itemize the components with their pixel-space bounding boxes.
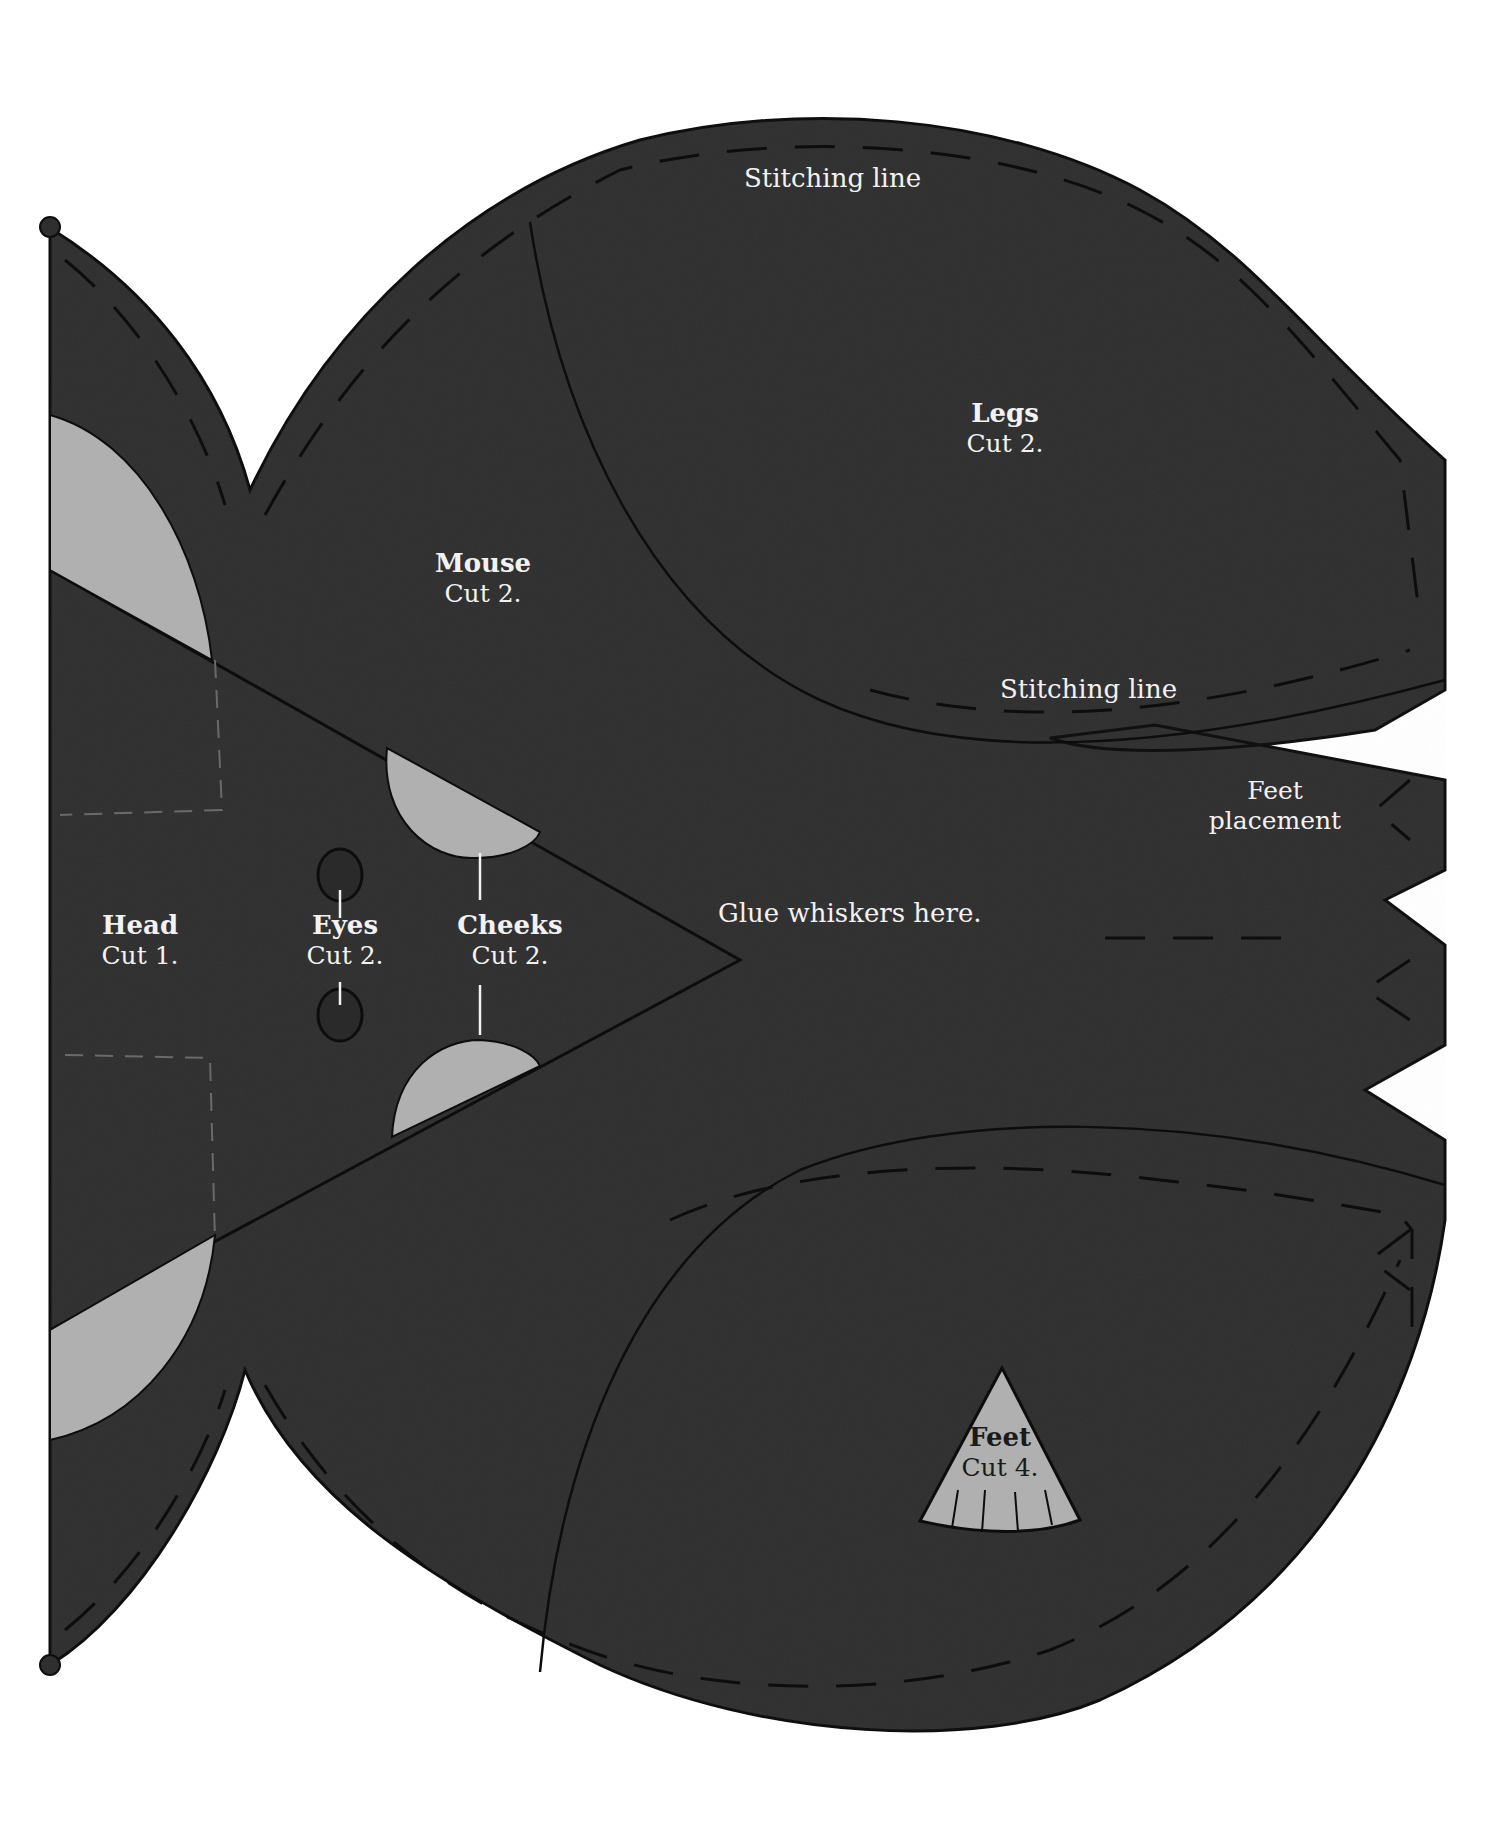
corner-marker-bottom — [40, 1655, 60, 1675]
mouse-title: Mouse — [428, 548, 538, 579]
feet-placement-line1: Feet — [1195, 776, 1355, 806]
head-label: Head Cut 1. — [90, 910, 190, 971]
corner-marker-top — [40, 217, 60, 237]
feet-placement-line2: placement — [1195, 806, 1355, 836]
stitching-line-label-legs: Stitching line — [1000, 674, 1177, 705]
feet-label: Feet Cut 4. — [950, 1422, 1050, 1483]
mouse-label: Mouse Cut 2. — [428, 548, 538, 609]
feet-cut: Cut 4. — [950, 1453, 1050, 1483]
cheeks-label: Cheeks Cut 2. — [450, 910, 570, 971]
eyes-title: Eyes — [295, 910, 395, 941]
head-title: Head — [90, 910, 190, 941]
legs-title: Legs — [955, 398, 1055, 429]
glue-whiskers-label: Glue whiskers here. — [718, 898, 982, 929]
mouse-cut: Cut 2. — [428, 579, 538, 609]
cheeks-cut: Cut 2. — [450, 941, 570, 971]
stitching-line-label-top: Stitching line — [744, 163, 921, 194]
legs-cut: Cut 2. — [955, 429, 1055, 459]
feet-placement-label: Feet placement — [1195, 776, 1355, 836]
eyes-label: Eyes Cut 2. — [295, 910, 395, 971]
legs-label: Legs Cut 2. — [955, 398, 1055, 459]
head-cut: Cut 1. — [90, 941, 190, 971]
eyes-cut: Cut 2. — [295, 941, 395, 971]
cheeks-title: Cheeks — [450, 910, 570, 941]
feet-title: Feet — [950, 1422, 1050, 1453]
